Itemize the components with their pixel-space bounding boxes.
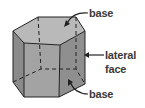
label-face: face: [105, 63, 126, 75]
label-lateral: lateral: [105, 49, 136, 61]
label-top-base: base: [89, 7, 113, 19]
label-bottom-base: base: [89, 88, 113, 100]
front-lateral-face: [24, 43, 60, 97]
